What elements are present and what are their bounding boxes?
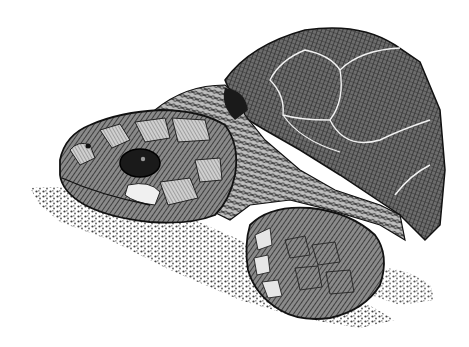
nostril (86, 144, 91, 149)
illustration-canvas (0, 0, 469, 347)
eye (120, 149, 160, 177)
turtle-illustration (0, 0, 469, 347)
